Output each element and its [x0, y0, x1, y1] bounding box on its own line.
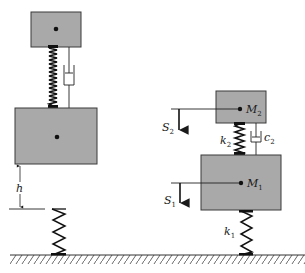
- gap-dimension-h: h: [9, 166, 45, 209]
- k1-label: k1: [224, 225, 235, 240]
- center-of-mass-dot: [239, 181, 243, 185]
- gap-label-h: h: [16, 182, 23, 195]
- diagram-canvas: h M2 S2 k2: [0, 0, 305, 273]
- ground: [10, 255, 305, 264]
- left-free-spring: [51, 209, 66, 256]
- right-system: M2 S2 k2 c2 M: [162, 91, 281, 256]
- c2-label: c2: [264, 131, 275, 146]
- s1-label: S1: [164, 194, 176, 209]
- center-of-mass-dot: [238, 107, 242, 111]
- spring-end-cap: [48, 45, 58, 48]
- spring-k1: k1: [224, 210, 253, 256]
- left-bottom-mass: [15, 108, 97, 164]
- s2-label: S2: [162, 121, 174, 136]
- mass-m1: M1: [201, 155, 281, 210]
- left-damper: [64, 47, 74, 108]
- ground-hatching: [10, 255, 305, 264]
- left-system: h: [9, 12, 97, 256]
- center-of-mass-dot: [55, 135, 60, 140]
- mass-m2: M2: [216, 91, 266, 123]
- left-upper-spring: [49, 47, 57, 106]
- damper-c2: c2: [251, 123, 275, 155]
- k2-label: k2: [220, 134, 231, 149]
- spring-k2: k2: [220, 122, 245, 155]
- left-top-mass: [31, 12, 81, 47]
- center-of-mass-dot: [54, 27, 59, 32]
